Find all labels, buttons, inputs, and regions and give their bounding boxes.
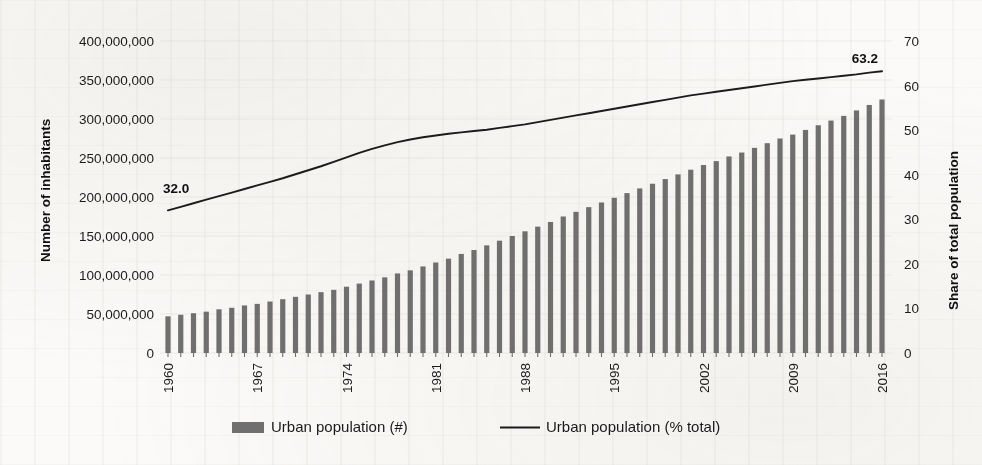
bar (522, 231, 527, 353)
bar (408, 270, 413, 353)
bar (229, 308, 234, 353)
y-axis-left-tick-label: 0 (146, 346, 154, 361)
bar (726, 156, 731, 353)
bar (841, 116, 846, 353)
y-axis-right-tick-label: 70 (904, 34, 919, 49)
y-axis-right-title: Share of total population (946, 151, 961, 310)
bar (471, 250, 476, 353)
bar (255, 304, 260, 353)
bar (828, 121, 833, 353)
bar (484, 245, 489, 353)
bar (777, 139, 782, 354)
bar (599, 202, 604, 353)
line-series-urban-population-share (168, 71, 882, 210)
bar (306, 295, 311, 354)
bar (280, 299, 285, 353)
bar (586, 207, 591, 353)
bar (433, 263, 438, 353)
bar (420, 266, 425, 353)
end-value-label: 63.2 (852, 51, 878, 66)
bar (803, 130, 808, 353)
y-axis-right-tick-label: 50 (904, 123, 919, 138)
legend-swatch-bar (232, 422, 264, 433)
x-axis-ticks: 196019671974198119881995200220092016 (161, 353, 890, 393)
bar (573, 212, 578, 353)
bar (790, 135, 795, 353)
bar (510, 236, 515, 353)
y-axis-left-tick-label: 300,000,000 (79, 112, 154, 127)
legend-label-line: Urban population (% total) (546, 418, 720, 435)
bar (816, 125, 821, 353)
bar (701, 165, 706, 353)
bar (650, 184, 655, 353)
bar (497, 241, 502, 353)
chart-figure: 050,000,000100,000,000150,000,000200,000… (0, 0, 982, 465)
bar (535, 227, 540, 353)
bar (548, 222, 553, 353)
bar (318, 292, 323, 353)
bar (357, 284, 362, 353)
bar (675, 174, 680, 353)
x-axis-tick-label: 2002 (697, 363, 712, 393)
bar (344, 287, 349, 353)
y-axis-right-tick-label: 10 (904, 301, 919, 316)
bar (446, 259, 451, 353)
y-axis-right-ticks: 010203040506070 (904, 34, 919, 361)
x-axis-tick-label: 2016 (875, 363, 890, 393)
bar (612, 198, 617, 353)
bar (216, 309, 221, 353)
y-axis-left-tick-label: 200,000,000 (79, 190, 154, 205)
bar (242, 305, 247, 353)
bar (688, 170, 693, 353)
bar (369, 280, 374, 353)
bar (395, 273, 400, 353)
y-axis-right-tick-label: 40 (904, 168, 919, 183)
bar (879, 100, 884, 354)
bar (191, 313, 196, 353)
x-axis-tick-label: 1974 (340, 363, 355, 394)
y-axis-right-tick-label: 30 (904, 212, 919, 227)
dual-axis-chart: 050,000,000100,000,000150,000,000200,000… (0, 0, 982, 465)
y-axis-left-title: Number of inhabitants (38, 119, 53, 262)
y-axis-left-tick-label: 350,000,000 (79, 73, 154, 88)
start-value-label: 32.0 (163, 181, 189, 196)
x-axis-tick-label: 1967 (250, 363, 265, 393)
y-axis-left-tick-label: 400,000,000 (79, 34, 154, 49)
bar (178, 315, 183, 353)
bar (204, 312, 209, 353)
y-axis-left-tick-label: 50,000,000 (86, 307, 154, 322)
bar-series-urban-population-count (165, 100, 884, 354)
bar (752, 148, 757, 353)
x-axis-tick-label: 1988 (518, 363, 533, 393)
bar (637, 188, 642, 353)
bar (267, 302, 272, 353)
y-axis-right-tick-label: 0 (904, 346, 912, 361)
x-axis-tick-label: 1981 (429, 363, 444, 393)
bar (663, 179, 668, 353)
bar (293, 297, 298, 353)
y-axis-left-tick-label: 100,000,000 (79, 268, 154, 283)
y-axis-left-tick-label: 150,000,000 (79, 229, 154, 244)
bar (854, 110, 859, 353)
chart-legend: Urban population (#) Urban population (%… (232, 418, 720, 435)
bar (867, 105, 872, 353)
bar (624, 193, 629, 353)
y-axis-left-tick-label: 250,000,000 (79, 151, 154, 166)
bar (714, 161, 719, 353)
x-axis-tick-label: 2009 (786, 363, 801, 393)
legend-label-bar: Urban population (#) (271, 418, 408, 435)
bar (459, 254, 464, 353)
bar (561, 217, 566, 354)
y-axis-right-tick-label: 20 (904, 257, 919, 272)
y-axis-right-tick-label: 60 (904, 79, 919, 94)
bar (331, 290, 336, 353)
bar (739, 153, 744, 353)
x-axis-tick-label: 1960 (161, 363, 176, 393)
x-axis-tick-label: 1995 (607, 363, 622, 393)
bar (382, 277, 387, 353)
bar (165, 316, 170, 353)
y-axis-left-ticks: 050,000,000100,000,000150,000,000200,000… (79, 34, 154, 361)
bar (765, 143, 770, 353)
